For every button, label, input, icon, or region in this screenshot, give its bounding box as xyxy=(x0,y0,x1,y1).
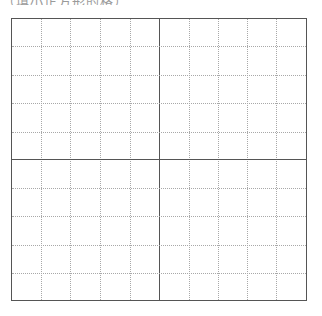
minor-horizontal-line xyxy=(12,46,306,47)
minor-horizontal-line xyxy=(12,188,306,189)
graph-paper-grid xyxy=(11,18,307,301)
minor-horizontal-line xyxy=(12,132,306,133)
major-horizontal-line xyxy=(12,159,306,160)
minor-horizontal-line xyxy=(12,216,306,217)
minor-horizontal-line xyxy=(12,245,306,246)
cropped-caption-text: （填小正方形的格） xyxy=(2,0,128,5)
minor-horizontal-line xyxy=(12,273,306,274)
minor-horizontal-line xyxy=(12,75,306,76)
minor-horizontal-line xyxy=(12,103,306,104)
